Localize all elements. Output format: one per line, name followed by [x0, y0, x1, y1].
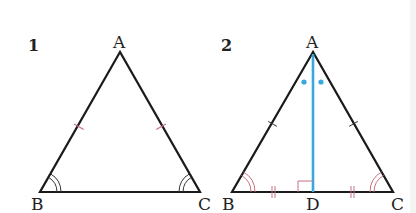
angle-arc-b-inner — [242, 176, 252, 193]
right-angle-mark — [298, 181, 313, 192]
angle-arc-c-outer — [179, 174, 190, 192]
triangle-abc-1 — [40, 52, 200, 192]
angle-arc-b-inner — [49, 177, 58, 192]
vertex-label-c: C — [198, 194, 211, 213]
angle-dot-right — [318, 79, 323, 84]
angle-dot-left — [301, 79, 306, 84]
vertex-label-a: A — [112, 32, 126, 52]
vertex-label-d: D — [306, 194, 320, 213]
angle-arc-b-outer — [244, 172, 256, 192]
vertex-label-b: B — [31, 194, 44, 213]
vertex-label-c: C — [391, 194, 404, 213]
angle-arc-c-outer — [370, 172, 382, 192]
figure-2: 2 A B D C — [221, 32, 404, 213]
angle-arc-b-outer — [51, 174, 62, 192]
vertex-label-a: A — [305, 32, 319, 52]
angle-arc-c-inner — [183, 177, 192, 192]
geometry-diagram: 1 A B C 2 — [0, 0, 416, 213]
angle-arc-c-inner — [374, 176, 384, 193]
figure-2-number: 2 — [221, 36, 232, 55]
figure-1-number: 1 — [28, 36, 39, 55]
figure-1: 1 A B C — [28, 32, 211, 213]
vertex-label-b: B — [222, 194, 235, 213]
